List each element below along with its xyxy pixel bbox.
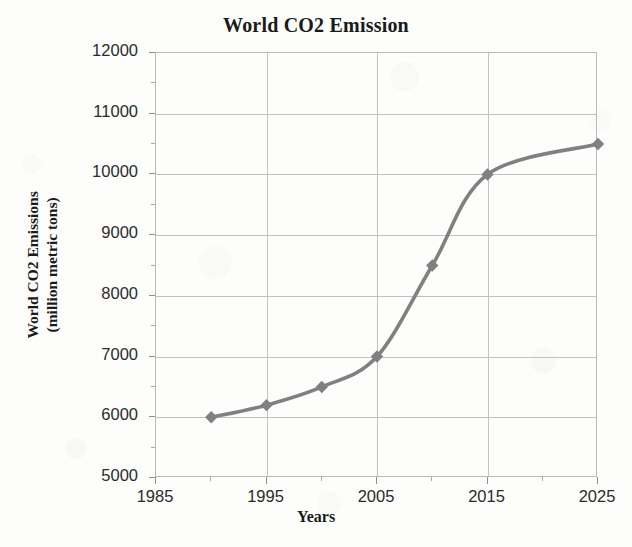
- chart-figure: World CO2 Emission World CO2 Emissions (…: [0, 0, 632, 547]
- x-axis-tick: [266, 477, 267, 484]
- series-line-world-co2: [211, 144, 598, 417]
- series-data-point: [205, 411, 217, 423]
- series-data-point: [260, 399, 272, 411]
- x-axis-tick: [155, 477, 156, 484]
- x-axis-tick: [376, 477, 377, 484]
- series-marker-group: [205, 138, 604, 424]
- x-axis-tick: [487, 477, 488, 484]
- x-axis-tick-label: 2015: [442, 487, 532, 506]
- y-axis-tick-label: 7000: [56, 345, 138, 364]
- y-axis-tick-label: 5000: [56, 466, 138, 485]
- x-axis-tick-label: 2005: [331, 487, 421, 506]
- y-axis-tick-label: 8000: [56, 284, 138, 303]
- y-axis-tick-label: 10000: [56, 162, 138, 181]
- x-axis-tick-label: 1985: [110, 487, 200, 506]
- x-axis-tick-label: 1995: [221, 487, 311, 506]
- series-data-point: [316, 381, 328, 393]
- y-axis-tick-label: 6000: [56, 405, 138, 424]
- plot-area: [155, 52, 597, 477]
- series-layer: [156, 53, 598, 478]
- x-axis-title: Years: [0, 508, 632, 526]
- y-axis-tick-label: 9000: [56, 223, 138, 242]
- y-axis-tick-label: 11000: [56, 102, 138, 121]
- x-axis-tick: [597, 477, 598, 484]
- chart-title: World CO2 Emission: [0, 14, 632, 37]
- y-axis-title-line2: (million metric tons): [43, 197, 60, 332]
- x-axis-tick-label: 2025: [552, 487, 632, 506]
- y-axis-tick-label: 12000: [56, 41, 138, 60]
- series-data-point: [592, 138, 604, 150]
- y-axis-title-line1: World CO2 Emissions: [24, 191, 41, 338]
